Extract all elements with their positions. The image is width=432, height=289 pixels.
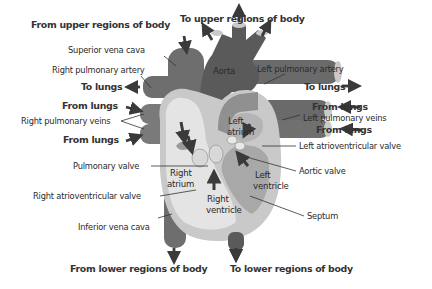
label-superior-vena-cava: Superior vena cava — [68, 45, 145, 55]
label-right-atrium-2: atrium — [167, 179, 194, 189]
label-right-av-valve: Right atrioventricular valve — [33, 191, 141, 201]
label-aorta: Aorta — [213, 66, 235, 76]
label-right-pulmonary-artery: Right pulmonary artery — [52, 65, 145, 75]
label-to-lungs-left: To lungs — [304, 81, 346, 92]
label-left-ventricle-1: Left — [255, 170, 271, 180]
label-aortic-valve: Aortic valve — [299, 166, 346, 176]
label-to-upper-body: To upper regions of body — [180, 13, 305, 24]
label-to-lower-body: To lower regions of body — [230, 263, 353, 274]
label-left-av-valve: Left atrioventricular valve — [299, 141, 401, 151]
label-left-pulmonary-veins: Left pulmonary veins — [303, 113, 386, 123]
label-to-lungs-right: To lungs — [81, 81, 123, 92]
label-from-lower-body: From lower regions of body — [70, 263, 207, 274]
label-right-ventricle-2: ventricle — [206, 205, 242, 215]
label-left-atrium-1: Left — [228, 116, 244, 126]
label-from-lungs-left-2: From lungs — [316, 124, 372, 135]
label-from-lungs-left-1: From lungs — [312, 101, 368, 112]
label-left-pulmonary-artery: Left pulmonary artery — [257, 64, 344, 74]
label-from-lungs-right-2: From lungs — [63, 134, 119, 145]
label-from-upper-body: From upper regions of body — [31, 19, 170, 30]
label-pulmonary-valve: Pulmonary valve — [73, 161, 139, 171]
label-right-atrium-1: Right — [170, 168, 192, 178]
label-right-pulmonary-veins: Right pulmonary veins — [21, 116, 110, 126]
label-right-ventricle-1: Right — [207, 194, 229, 204]
label-left-ventricle-2: ventricle — [253, 181, 289, 191]
label-septum: Septum — [307, 211, 338, 221]
label-from-lungs-right-1: From lungs — [62, 100, 118, 111]
heart-diagram: From upper regions of body To upper regi… — [0, 0, 432, 289]
label-left-atrium-2: atrium — [227, 127, 254, 137]
label-inferior-vena-cava: Inferior vena cava — [78, 222, 150, 232]
